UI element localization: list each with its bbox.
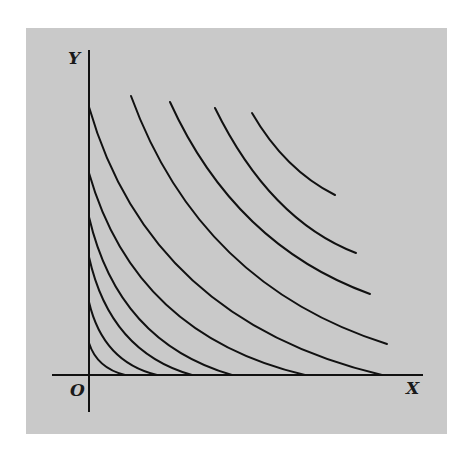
curve-10 (252, 113, 335, 195)
curve-6 (89, 107, 382, 375)
curve-9 (215, 108, 356, 253)
y-axis-label: Y (68, 50, 80, 67)
curve-8 (170, 102, 370, 294)
x-axis-label: X (406, 380, 419, 397)
origin-label: O (70, 382, 85, 399)
curve-5 (89, 173, 305, 375)
curve-1 (89, 343, 125, 375)
curve-3 (89, 257, 192, 375)
curve-2 (89, 302, 157, 375)
